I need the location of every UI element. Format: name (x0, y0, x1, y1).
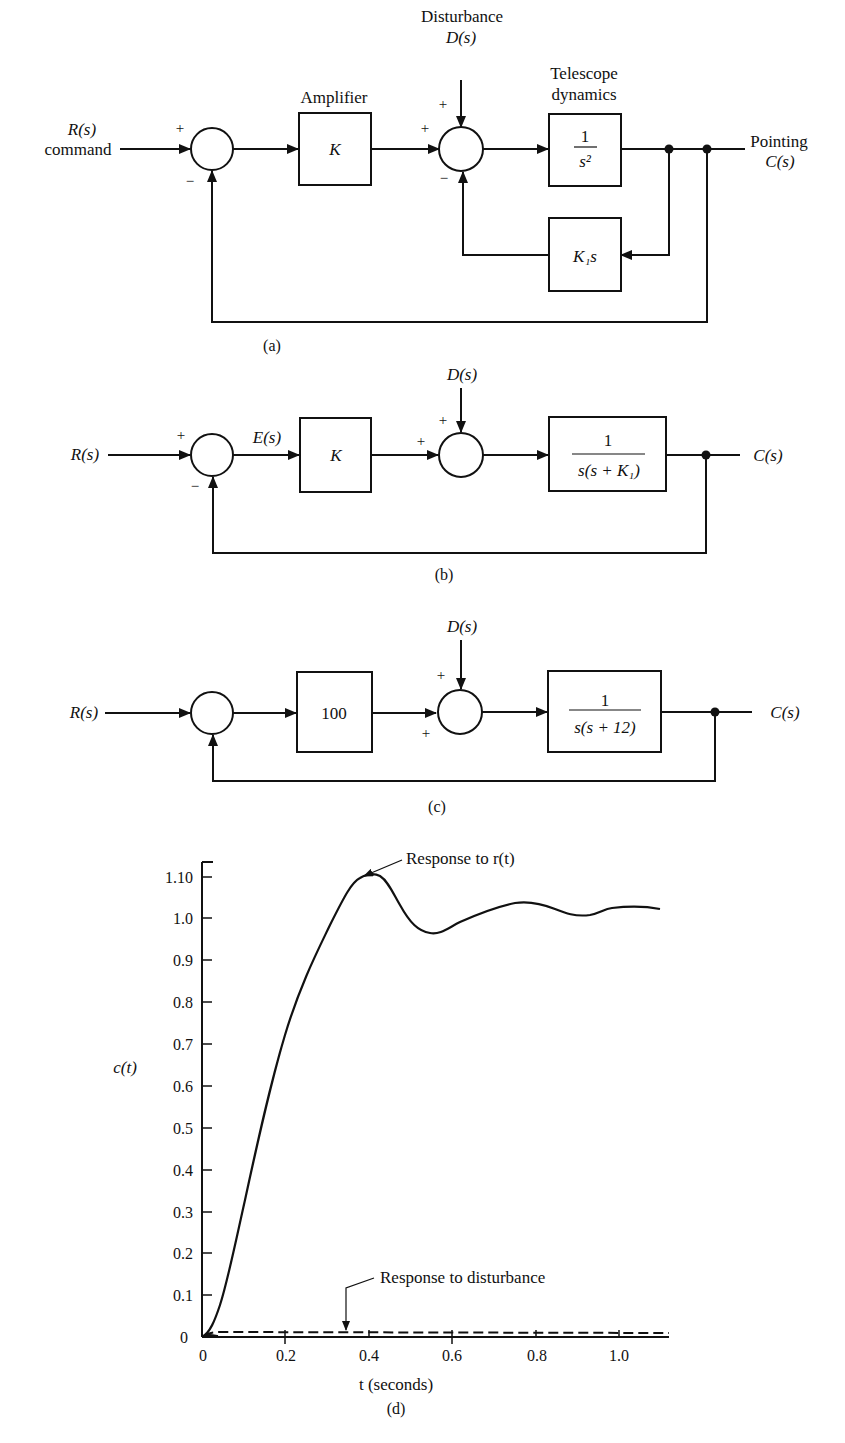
plant-block (548, 671, 661, 752)
summing-junction-2 (439, 127, 483, 171)
response-disturbance-curve (204, 1332, 669, 1336)
x-tick-label: 0 (199, 1347, 207, 1364)
y-tick-label: 1.10 (165, 869, 193, 886)
input-label: R(s) (70, 445, 100, 464)
annotation-arrow-r (364, 860, 402, 876)
input-label: R(s) (69, 703, 99, 722)
sign-minus: − (186, 173, 194, 189)
inner-feedback-path (621, 149, 669, 255)
panel-c-diagram: R(s) 100 + D(s) + 1 s(s + 12) C(s) (c) (69, 617, 800, 816)
amplifier-gain: K (328, 140, 342, 159)
y-tick-label: 0.4 (173, 1162, 193, 1179)
output-title: Pointing (750, 132, 808, 151)
x-tick-label: 0.4 (359, 1347, 379, 1364)
annotation-response-disturbance: Response to disturbance (380, 1268, 545, 1287)
x-tick-label: 0.2 (276, 1347, 296, 1364)
summing-junction-1 (191, 434, 233, 476)
y-ticks (202, 877, 212, 1295)
sign-minus: − (440, 170, 448, 186)
x-tick-label: 0.8 (527, 1347, 547, 1364)
x-tick-label: 0.6 (442, 1347, 462, 1364)
output-label: C(s) (765, 152, 795, 171)
y-axis-label: c(t) (113, 1058, 137, 1077)
gain-label: 100 (321, 704, 347, 723)
y-tick-label: 0 (180, 1329, 188, 1346)
y-tick-label: 0.6 (173, 1078, 193, 1095)
annotation-response-r: Response to r(t) (406, 849, 515, 868)
summing-junction-1 (191, 692, 233, 734)
disturbance-label: D(s) (446, 617, 478, 636)
input-sublabel: command (44, 140, 112, 159)
y-tick-label: 0.3 (173, 1204, 193, 1221)
caption-d: (d) (387, 1400, 406, 1418)
output-label: C(s) (753, 446, 783, 465)
sign-plus: + (422, 725, 430, 741)
disturbance-label: D(s) (446, 365, 478, 384)
plant-title-line1: Telescope (550, 64, 618, 83)
disturbance-title: Disturbance (421, 7, 503, 26)
rate-feedback-gain: K₁s (572, 247, 597, 266)
y-tick-label: 0.5 (173, 1120, 193, 1137)
plant-denominator: s(s + 12) (574, 718, 636, 737)
sign-plus: + (437, 667, 445, 683)
sign-plus: + (177, 427, 185, 443)
y-tick-label: 0.8 (173, 994, 193, 1011)
sign-plus: + (417, 433, 425, 449)
summing-junction-2 (438, 690, 482, 734)
sign-plus: + (439, 96, 447, 112)
y-tick-label: 0.7 (173, 1036, 193, 1053)
sign-minus: − (191, 478, 199, 494)
amplifier-title: Amplifier (300, 88, 367, 107)
x-tick-label: 1.0 (609, 1347, 629, 1364)
plant-numerator: 1 (601, 691, 610, 710)
gain-label: K (329, 446, 343, 465)
summing-junction-2 (439, 433, 483, 477)
telescope-dynamics-block (549, 114, 621, 186)
y-tick-label: 1.0 (173, 910, 193, 927)
y-tick-label: 0.1 (173, 1287, 193, 1304)
plant-denominator: s² (579, 152, 592, 171)
sign-plus: + (421, 120, 429, 136)
panel-d-plot: 0 0.1 0.2 0.3 0.4 0.5 0.6 0.7 0.8 0.9 1.… (113, 849, 669, 1418)
inner-feedback-return (463, 172, 549, 255)
input-label: R(s) (67, 120, 97, 139)
plant-numerator: 1 (581, 127, 590, 146)
plant-denominator: s(s + K₁) (578, 461, 640, 480)
sign-plus: + (176, 120, 184, 136)
figure-canvas: R(s) command + − Amplifier K + Disturban… (0, 0, 845, 1443)
output-label: C(s) (770, 703, 800, 722)
plant-numerator: 1 (604, 431, 613, 450)
panel-a-diagram: R(s) command + − Amplifier K + Disturban… (44, 7, 808, 355)
caption-c: (c) (428, 798, 446, 816)
caption-a: (a) (263, 337, 281, 355)
y-tick-label: 0.9 (173, 952, 193, 969)
annotation-arrow-disturbance (346, 1278, 374, 1330)
outer-feedback-path (212, 149, 707, 322)
error-label: E(s) (252, 428, 282, 447)
disturbance-label: D(s) (445, 28, 477, 47)
y-tick-label: 0.2 (173, 1245, 193, 1262)
panel-b-diagram: R(s) + − E(s) K + D(s) + G(s) 1 s(s + K₁… (70, 365, 783, 584)
sign-plus: + (439, 412, 447, 428)
caption-b: (b) (435, 566, 454, 584)
plant-title-line2: dynamics (551, 85, 616, 104)
x-axis-label: t (seconds) (359, 1375, 433, 1394)
summing-junction-1 (191, 128, 233, 170)
